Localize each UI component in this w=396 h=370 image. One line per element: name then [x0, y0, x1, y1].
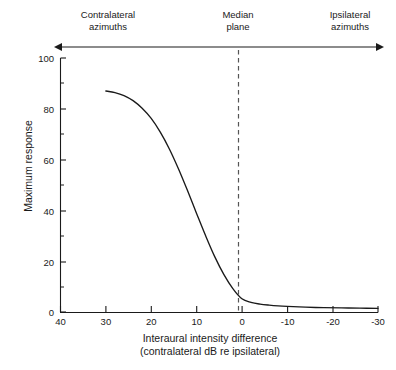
x-tick-label: 40	[55, 316, 66, 327]
x-axis	[60, 306, 378, 313]
x-tick-label: 30	[101, 316, 112, 327]
x-axis-title: Interaural intensity difference (contral…	[40, 332, 380, 358]
x-tick-label: -30	[371, 316, 385, 327]
y-tick-label: 0	[49, 307, 54, 318]
x-tick-labels: 40 30 20 10 0 -10 -20 -30	[55, 316, 385, 327]
y-tick-labels: 100 80 60 40 20 0	[38, 53, 54, 318]
x-tick-label: 0	[239, 316, 244, 327]
data-series-maximum-response	[106, 91, 378, 308]
y-tick-label: 60	[43, 155, 54, 166]
y-tick-label: 100	[38, 53, 54, 64]
y-tick-label: 40	[43, 206, 54, 217]
figure-panel: Contralateral azimuths Median plane Ipsi…	[0, 0, 396, 370]
x-tick-label: 10	[191, 316, 202, 327]
y-tick-label: 80	[43, 104, 54, 115]
x-tick-label: 20	[146, 316, 157, 327]
y-axis	[61, 58, 67, 312]
y-axis-title: Maximum response	[22, 81, 34, 251]
chart-svg: 100 80 60 40 20 0 40 30 20 10 0 -10 -20	[0, 0, 396, 370]
x-tick-label: -10	[281, 316, 295, 327]
x-tick-label: -20	[326, 316, 340, 327]
y-tick-label: 20	[43, 257, 54, 268]
